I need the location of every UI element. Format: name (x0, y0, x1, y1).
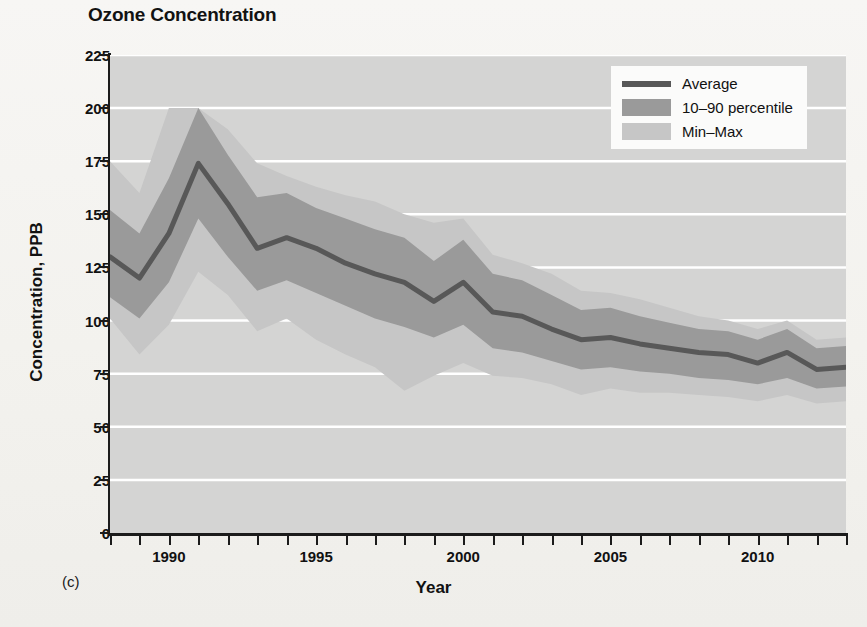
legend-item: Average (622, 75, 793, 92)
x-axis-line (108, 533, 848, 536)
x-tick-mark (610, 536, 612, 545)
y-axis-title: Concentration, PPB (27, 177, 47, 427)
x-tick-mark (699, 536, 701, 545)
x-tick-label: 1990 (152, 548, 185, 565)
legend-swatch-line-icon (622, 81, 671, 87)
x-tick-mark (787, 536, 789, 545)
x-tick-mark (228, 536, 230, 545)
x-tick-mark (728, 536, 730, 545)
x-tick-mark (110, 536, 112, 545)
panel-label: (c) (62, 573, 80, 590)
x-tick-mark (817, 536, 819, 545)
legend-swatch-band-icon (622, 99, 671, 116)
x-tick-label: 2010 (741, 548, 774, 565)
x-tick-mark (552, 536, 554, 545)
x-tick-mark (758, 536, 760, 545)
x-tick-mark (434, 536, 436, 545)
x-tick-mark (463, 536, 465, 545)
x-tick-mark (404, 536, 406, 545)
y-axis-tick-group: 0255075100125150175200225 (40, 0, 110, 627)
x-tick-mark (169, 536, 171, 545)
page-title: Ozone Concentration (88, 4, 276, 26)
x-tick-label: 2005 (594, 548, 627, 565)
legend-label: 10–90 percentile (682, 99, 793, 116)
x-tick-mark (139, 536, 141, 545)
x-tick-mark (316, 536, 318, 545)
legend-label: Average (682, 75, 738, 92)
x-tick-mark (493, 536, 495, 545)
x-tick-mark (287, 536, 289, 545)
legend-swatch-band-icon (622, 123, 671, 140)
x-tick-mark (581, 536, 583, 545)
legend-item: Min–Max (622, 123, 793, 140)
chart-page: Ozone Concentration 02550751001251501752… (0, 0, 867, 627)
x-tick-mark (522, 536, 524, 545)
legend-item: 10–90 percentile (622, 99, 793, 116)
x-tick-mark (846, 536, 848, 545)
legend-label: Min–Max (682, 123, 743, 140)
x-tick-label: 2000 (447, 548, 480, 565)
x-axis-title: Year (0, 578, 867, 598)
x-tick-mark (198, 536, 200, 545)
x-tick-mark (346, 536, 348, 545)
x-tick-mark (669, 536, 671, 545)
chart-legend: Average10–90 percentileMin–Max (611, 66, 807, 149)
x-tick-mark (375, 536, 377, 545)
x-tick-label: 1995 (299, 548, 332, 565)
x-tick-mark (640, 536, 642, 545)
x-tick-mark (257, 536, 259, 545)
